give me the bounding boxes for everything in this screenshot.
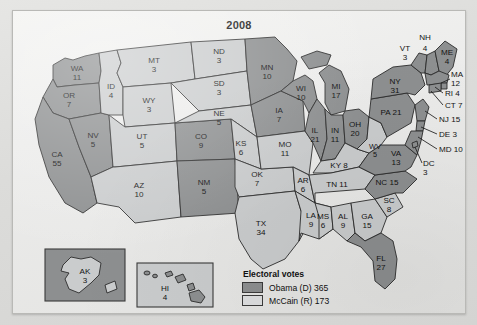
state-TX[interactable] [235,191,309,269]
label-UT: UT [137,132,148,141]
label-ND: ND [213,47,225,56]
label-RI: RI 4 [445,89,460,98]
label-CO: CO [195,132,207,141]
legend-label-mccain: McCain (R) 173 [269,296,329,306]
label-NY: NY [389,77,401,86]
label-NV: NV [87,131,99,140]
label-SC-votes: 8 [387,205,392,214]
legend-swatch-obama [242,282,263,293]
label-SD: SD [213,79,224,88]
label-WA: WA [71,64,84,73]
label-MI-votes: 17 [331,91,341,100]
label-AR-votes: 6 [301,185,306,194]
label-CO-votes: 9 [199,141,204,150]
label-VT: VT [400,44,410,53]
label-SD-votes: 3 [217,88,222,97]
label-WV-votes: 5 [373,150,377,159]
label-NY-votes: 31 [390,86,400,95]
label-OR-votes: 7 [67,100,72,109]
label-TX-votes: 34 [256,228,266,237]
state-FL[interactable] [347,233,397,289]
label-IN: IN [331,126,339,135]
label-MT-votes: 3 [152,65,157,74]
label-GA-votes: 15 [362,221,372,230]
label-HI: HI [161,284,169,293]
label-DC-votes: 3 [423,168,428,177]
label-PA: PA 21 [380,108,401,117]
legend-item-mccain: McCain (R) 173 [242,295,329,306]
label-KY: KY 8 [330,161,348,170]
legend-item-obama: Obama (D) 365 [242,282,329,293]
label-VA-votes: 13 [391,158,401,167]
legend-swatch-mccain [242,295,263,306]
label-DC: DC [423,159,435,168]
label-NC: NC 15 [376,178,399,187]
label-VT-votes: 3 [403,53,408,62]
label-AZ-votes: 10 [134,190,144,199]
label-MS-votes: 6 [321,221,326,230]
label-WY: WY [142,96,156,105]
label-OH-votes: 20 [350,129,360,138]
label-ME: ME [441,48,454,57]
label-VA: VA [391,149,402,158]
label-CT: CT 7 [445,101,463,110]
label-MA-votes: 12 [451,79,461,88]
label-OH: OH [349,120,361,129]
label-MA: MA [451,70,464,79]
label-UT-votes: 5 [140,141,145,150]
label-AL: AL [338,212,348,221]
label-ID: ID [107,82,115,91]
label-HI-votes: 4 [163,293,168,302]
label-GA: GA [361,212,373,221]
label-LA-votes: 9 [309,220,314,229]
state-CT[interactable] [429,83,441,93]
page-background: 2008 [0,0,477,325]
label-KS: KS [236,139,247,148]
label-MN: MN [261,63,274,72]
label-KS-votes: 6 [239,148,244,157]
leader-CT [431,91,443,105]
label-AK: AK [80,267,91,276]
label-MO: MO [278,140,291,149]
label-MI: MI [332,82,341,91]
label-IA-votes: 7 [277,115,282,124]
label-FL: FL [376,254,386,263]
label-NV-votes: 5 [91,140,96,149]
label-MO-votes: 11 [281,149,290,158]
label-WA-votes: 11 [73,73,82,82]
legend-title: Electoral votes [243,269,329,279]
label-TX: TX [256,219,267,228]
legend-label-obama: Obama (D) 365 [269,283,328,293]
label-NH: NH [419,33,431,42]
label-MS: MS [317,212,330,221]
label-MD: MD 10 [439,145,463,154]
label-NM-votes: 5 [202,187,207,196]
map-legend: Electoral votes Obama (D) 365 McCain (R)… [242,269,329,308]
label-AR: AR [297,176,308,185]
label-OK-votes: 7 [255,179,260,188]
state-NM[interactable] [177,159,239,217]
label-NE-votes: 5 [217,118,222,127]
label-LA: LA [306,211,317,220]
state-DE[interactable] [416,121,425,131]
state-NJ[interactable] [415,99,429,121]
label-CA-votes: 55 [52,159,62,168]
label-NE: NE [213,109,225,118]
label-IN-votes: 11 [331,135,340,144]
map-svg: WA 11 OR 7 CA 55 NV 5 ID 4 MT 3 WY 3 UT … [13,27,465,313]
label-WI-votes: 10 [296,93,306,102]
label-OK: OK [251,170,263,179]
label-IL: IL [312,126,319,135]
label-MN-votes: 10 [262,72,272,81]
label-SC: SC [383,196,394,205]
label-IL-votes: 21 [310,135,320,144]
label-NH-votes: 4 [423,44,428,53]
label-IA: IA [275,106,283,115]
label-AK-votes: 3 [83,276,88,285]
label-CA: CA [51,150,63,159]
label-DE: DE 3 [439,130,457,139]
us-electoral-map: WA 11 OR 7 CA 55 NV 5 ID 4 MT 3 WY 3 UT … [13,27,465,313]
label-AZ: AZ [134,181,144,190]
label-MT: MT [148,56,160,65]
label-NJ: NJ 15 [439,115,461,124]
